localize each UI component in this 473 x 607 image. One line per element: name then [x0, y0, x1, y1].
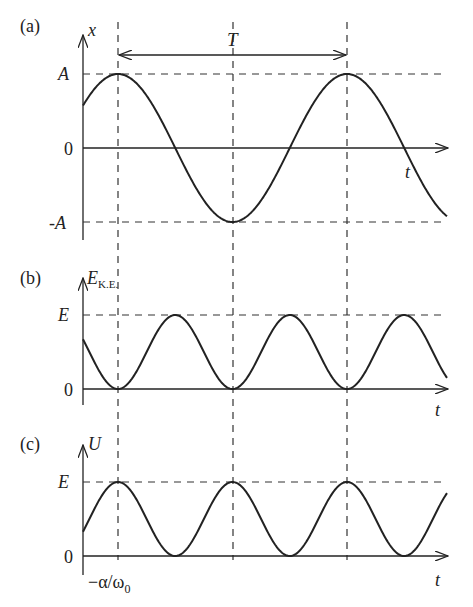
- tick-E-b: E: [57, 305, 69, 325]
- period-label-T: T: [227, 29, 239, 50]
- tick-minus-A: -A: [49, 213, 67, 233]
- tick-zero-a: 0: [64, 139, 73, 159]
- x-axis-label-t-b: t: [435, 400, 441, 420]
- tick-A: A: [57, 64, 70, 84]
- panel-label-b: (b): [20, 268, 41, 289]
- x-axis-label-t-c: t: [435, 570, 441, 590]
- oscillator-energy-diagram: (a) x t A 0 -A T (b) EK.E. t E 0 (c) U t: [0, 0, 473, 607]
- tick-zero-c: 0: [64, 547, 73, 567]
- panel-c: (c) U t E 0 −α/ω0: [20, 434, 448, 596]
- potential-energy-curve: [83, 482, 447, 556]
- panel-label-c: (c): [20, 434, 40, 455]
- kinetic-energy-curve: [83, 315, 447, 389]
- tick-zero-b: 0: [64, 380, 73, 400]
- y-axis-label-E: EK.E.: [86, 268, 118, 290]
- y-axis-label-U: U: [88, 434, 102, 454]
- y-axis-label-x: x: [87, 20, 96, 40]
- panel-a: (a) x t A 0 -A T: [20, 16, 448, 240]
- figure-canvas: (a) x t A 0 -A T (b) EK.E. t E 0 (c) U t: [0, 0, 473, 607]
- phase-marker-label: −α/ω0: [88, 572, 130, 596]
- x-axis-label-t-a: t: [405, 162, 411, 182]
- panel-label-a: (a): [20, 16, 40, 37]
- panel-b: (b) EK.E. t E 0: [20, 268, 448, 420]
- tick-E-c: E: [57, 472, 69, 492]
